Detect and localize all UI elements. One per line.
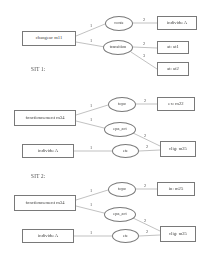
edge-label-fonctionnement-topo-sit2: 1 — [90, 188, 92, 193]
node-label: fonctionnement m34 — [25, 201, 64, 206]
edge-label-conte-individu: 2 — [143, 17, 145, 22]
node-epa-act-sit1[interactable]: epa_act — [104, 122, 136, 137]
node-label: topo — [118, 102, 126, 106]
node-label: at: at1 — [167, 45, 179, 50]
node-ete-sit1[interactable]: ete — [112, 144, 139, 158]
edge-label-fonctionnement-epaact-sit1: 1 — [90, 117, 92, 122]
node-label: clig: m25 — [169, 147, 187, 152]
node-label: ete — [123, 149, 128, 153]
diagram-canvas: changeur m11 conte transition individu A… — [0, 0, 208, 258]
node-label: topo — [118, 187, 126, 191]
node-label: individu A — [38, 234, 58, 239]
edge-label-fonctionnement-topo-sit1: 1 — [90, 103, 92, 108]
edge-label-transition-at1: 2 — [143, 41, 145, 46]
edge-label-individu-ete-sit2: 1 — [90, 230, 92, 235]
edge-label-epaact-clig-sit1: 2 — [144, 133, 146, 138]
node-label: transition — [110, 45, 127, 49]
node-label: conte — [114, 21, 124, 25]
edge-label-topo-ex-sit1: 2 — [144, 98, 146, 103]
node-label: individu A — [167, 21, 187, 26]
node-fonctionnement-m34-sit2[interactable]: fonctionnement m34 — [14, 195, 76, 211]
node-individu-a-sit2[interactable]: individu A — [22, 229, 74, 243]
node-epa-act-sit2[interactable]: epa_act — [104, 207, 136, 222]
node-label: ete — [123, 234, 128, 238]
node-clig-m25-sit1[interactable]: clig: m25 — [160, 141, 196, 157]
node-fonctionnement-m34-sit1[interactable]: fonctionnement m34 — [14, 110, 76, 126]
edge-label-individu-ete-sit1: 1 — [90, 145, 92, 150]
section-label-sit2: SIT 2: — [31, 173, 46, 179]
node-label: epa_act — [113, 212, 126, 216]
edge-label-epaact-clig-sit2: 2 — [144, 218, 146, 223]
node-ex-m22-sit1[interactable]: ex: m22 — [157, 97, 195, 111]
node-at-at1[interactable]: at: at1 — [157, 41, 189, 54]
node-ete-sit2[interactable]: ete — [112, 229, 139, 243]
edge-label-ete-clig-sit1: 2 — [146, 144, 148, 149]
node-individu-a-sit1[interactable]: individu A — [22, 144, 74, 158]
edge-label-fonctionnement-epaact-sit2: 1 — [90, 202, 92, 207]
node-label: clig: m25 — [169, 232, 187, 237]
node-label: fonctionnement m34 — [25, 116, 64, 121]
node-label: at: at2 — [167, 67, 179, 72]
edge-label-transition-at2: 3 — [143, 53, 145, 58]
node-transition[interactable]: transition — [103, 40, 133, 55]
edge-label-changeur-conte: 1 — [90, 23, 92, 28]
node-in-m25-sit2[interactable]: in: m25 — [157, 182, 195, 196]
node-label: changeur m11 — [36, 36, 63, 41]
node-clig-m25-sit2[interactable]: clig: m25 — [160, 226, 196, 242]
node-topo-sit1[interactable]: topo — [108, 97, 136, 112]
edge-label-changeur-transition: 1 — [90, 38, 92, 43]
edge-label-ete-clig-sit2: 2 — [146, 229, 148, 234]
node-label: ex: m22 — [168, 102, 183, 107]
node-label: epa_act — [113, 127, 126, 131]
node-conte[interactable]: conte — [105, 16, 133, 31]
node-individu-a-top[interactable]: individu A — [157, 16, 197, 30]
node-at-at2[interactable]: at: at2 — [157, 62, 189, 76]
node-label: in: m25 — [169, 187, 184, 192]
section-label-sit1: SIT 1: — [31, 66, 46, 72]
node-label: individu A — [38, 149, 58, 154]
node-topo-sit2[interactable]: topo — [108, 182, 136, 197]
edge-label-topo-in-sit2: 2 — [144, 183, 146, 188]
node-changeur-m11[interactable]: changeur m11 — [22, 31, 76, 46]
